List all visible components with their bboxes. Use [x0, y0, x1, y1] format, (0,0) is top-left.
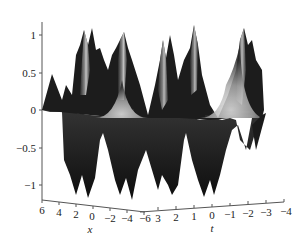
surface [42, 25, 266, 200]
x-tick-neg6: −6 [139, 212, 151, 224]
t-tick-2: 2 [173, 211, 179, 223]
surface-plot: 1 0.5 0 −0.5 −1 [0, 0, 305, 249]
z-tick-0: 0 [31, 104, 37, 116]
x-tick-neg2: −2 [104, 212, 116, 224]
z-tick-neg1: −1 [24, 179, 36, 191]
z-tick-0.5: 0.5 [22, 67, 36, 79]
t-tick-neg4: −4 [280, 205, 292, 217]
t-tick-neg3: −3 [260, 206, 272, 218]
z-tick-1: 1 [31, 29, 37, 41]
x-tick-6: 6 [39, 204, 45, 216]
t-tick-neg2: −2 [242, 207, 254, 219]
x-axis-title: x [87, 223, 93, 235]
t-tick-0: 0 [209, 209, 215, 221]
t-tick-1: 1 [191, 210, 197, 222]
t-tick-neg1: −1 [224, 208, 236, 220]
t-axis-title: t [210, 222, 214, 234]
t-tick-3: 3 [155, 212, 161, 224]
x-tick-2: 2 [73, 208, 79, 220]
x-axis: 6 4 2 0 −2 −4 −6 x [39, 200, 151, 235]
z-tick-neg0.5: −0.5 [16, 142, 36, 154]
t-axis: 3 2 1 0 −1 −2 −3 −4 t [140, 199, 292, 234]
x-tick-neg4: −4 [121, 212, 133, 224]
x-tick-4: 4 [56, 206, 62, 218]
z-axis: 1 0.5 0 −0.5 −1 [16, 22, 42, 200]
x-tick-0: 0 [89, 210, 95, 222]
